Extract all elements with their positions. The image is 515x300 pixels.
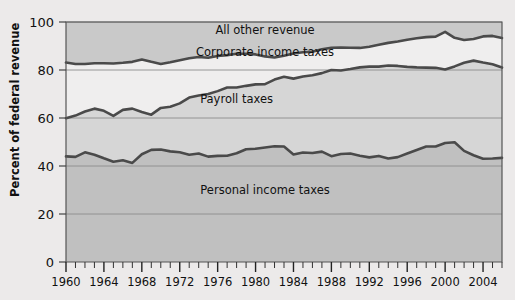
y-tick-label-40: 40: [37, 159, 54, 174]
y-axis-title: Percent of federal revenue: [8, 23, 22, 197]
series-label-corporate-income-taxes: Corporate income taxes: [196, 45, 334, 59]
series-label-all-other-revenue: All other revenue: [215, 23, 314, 37]
x-tick-label-1972: 1972: [165, 275, 194, 289]
x-tick-label-2000: 2000: [430, 275, 459, 289]
series-label-payroll-taxes: Payroll taxes: [200, 92, 273, 106]
chart-container: 020406080100 196019641968197219761980198…: [0, 0, 515, 300]
x-tick-label-1988: 1988: [317, 275, 346, 289]
y-tick-label-0: 0: [46, 255, 54, 270]
x-tick-label-1996: 1996: [393, 275, 422, 289]
y-tick-label-100: 100: [29, 15, 54, 30]
series-label-personal-income-taxes: Personal income taxes: [200, 183, 329, 197]
stacked-area-chart: 020406080100 196019641968197219761980198…: [0, 0, 515, 300]
x-tick-label-1968: 1968: [127, 275, 156, 289]
x-tick-label-1980: 1980: [241, 275, 270, 289]
x-tick-label-1984: 1984: [279, 275, 308, 289]
y-tick-label-20: 20: [37, 207, 54, 222]
x-tick-label-1964: 1964: [89, 275, 118, 289]
x-tick-label-1992: 1992: [355, 275, 384, 289]
x-tick-label-1960: 1960: [51, 275, 80, 289]
x-tick-label-1976: 1976: [203, 275, 232, 289]
x-tick-label-2004: 2004: [468, 275, 497, 289]
y-tick-label-80: 80: [37, 63, 54, 78]
y-tick-label-60: 60: [37, 111, 54, 126]
